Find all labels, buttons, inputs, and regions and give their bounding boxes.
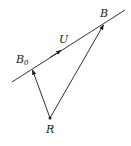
point-R (49, 117, 52, 120)
label-B0: B0 (15, 53, 29, 67)
label-U: U (59, 33, 69, 46)
line-B0-B (12, 10, 125, 82)
vector-diagram: B0 B U R (0, 0, 131, 146)
direction-arrow-U (50, 50, 61, 57)
vector-R-to-B0 (33, 70, 51, 118)
label-B: B (99, 7, 108, 20)
label-R: R (45, 123, 54, 136)
